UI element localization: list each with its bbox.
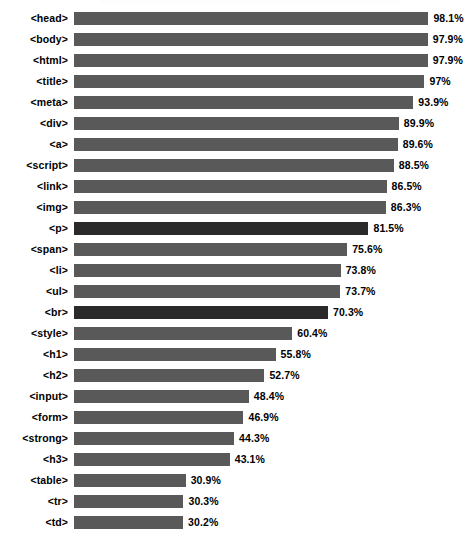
bar-row: <p>81.5% xyxy=(0,218,475,239)
bar-row: <form>46.9% xyxy=(0,407,475,428)
value-label: 43.1% xyxy=(235,449,265,470)
value-label: 30.9% xyxy=(191,470,221,491)
bar xyxy=(74,138,398,151)
bar-row: <li>73.8% xyxy=(0,260,475,281)
value-label: 46.9% xyxy=(248,407,278,428)
category-label: <p> xyxy=(0,218,68,239)
value-label: 86.5% xyxy=(392,176,422,197)
category-label: <script> xyxy=(0,155,68,176)
bar-row: <br>70.3% xyxy=(0,302,475,323)
category-label: <table> xyxy=(0,470,68,491)
category-label: <a> xyxy=(0,134,68,155)
category-label: <div> xyxy=(0,113,68,134)
bar-row: <a>89.6% xyxy=(0,134,475,155)
category-label: <body> xyxy=(0,29,68,50)
bar-row: <title>97% xyxy=(0,71,475,92)
value-label: 52.7% xyxy=(269,365,299,386)
value-label: 44.3% xyxy=(239,428,269,449)
bar xyxy=(74,54,428,67)
value-label: 93.9% xyxy=(418,92,448,113)
bar xyxy=(74,327,292,340)
category-label: <title> xyxy=(0,71,68,92)
bar xyxy=(74,180,387,193)
bar xyxy=(74,264,341,277)
bar xyxy=(74,117,399,130)
bar-row: <div>89.9% xyxy=(0,113,475,134)
category-label: <style> xyxy=(0,323,68,344)
category-label: <link> xyxy=(0,176,68,197)
bar-row: <h2>52.7% xyxy=(0,365,475,386)
bar xyxy=(74,75,424,88)
value-label: 97.9% xyxy=(433,50,463,71)
category-label: <html> xyxy=(0,50,68,71)
value-label: 81.5% xyxy=(373,218,403,239)
value-label: 73.7% xyxy=(345,281,375,302)
bar-chart: <head>98.1%<body>97.9%<html>97.9%<title>… xyxy=(0,0,475,550)
value-label: 88.5% xyxy=(399,155,429,176)
value-label: 70.3% xyxy=(333,302,363,323)
bar xyxy=(74,222,368,235)
bar xyxy=(74,285,340,298)
value-label: 75.6% xyxy=(352,239,382,260)
bar xyxy=(74,348,276,361)
bar xyxy=(74,474,186,487)
category-label: <head> xyxy=(0,8,68,29)
bar xyxy=(74,369,264,382)
category-label: <h3> xyxy=(0,449,68,470)
category-label: <span> xyxy=(0,239,68,260)
value-label: 89.9% xyxy=(404,113,434,134)
category-label: <strong> xyxy=(0,428,68,449)
category-label: <li> xyxy=(0,260,68,281)
bar-row: <style>60.4% xyxy=(0,323,475,344)
bar-row: <script>88.5% xyxy=(0,155,475,176)
bar-row: <strong>44.3% xyxy=(0,428,475,449)
bar xyxy=(74,432,234,445)
value-label: 86.3% xyxy=(391,197,421,218)
bar-row: <meta>93.9% xyxy=(0,92,475,113)
bar xyxy=(74,495,183,508)
value-label: 97.9% xyxy=(433,29,463,50)
bar-row: <html>97.9% xyxy=(0,50,475,71)
category-label: <input> xyxy=(0,386,68,407)
bar xyxy=(74,33,428,46)
bar xyxy=(74,411,243,424)
bar xyxy=(74,201,386,214)
bar xyxy=(74,12,428,25)
bar-row: <h1>55.8% xyxy=(0,344,475,365)
value-label: 30.2% xyxy=(188,512,218,533)
value-label: 73.8% xyxy=(346,260,376,281)
bar-row: <span>75.6% xyxy=(0,239,475,260)
value-label: 55.8% xyxy=(281,344,311,365)
bar xyxy=(74,390,249,403)
bar-row: <img>86.3% xyxy=(0,197,475,218)
plot-area: <head>98.1%<body>97.9%<html>97.9%<title>… xyxy=(0,8,475,542)
bar xyxy=(74,453,230,466)
bar-row: <table>30.9% xyxy=(0,470,475,491)
bar-row: <ul>73.7% xyxy=(0,281,475,302)
bar-row: <h3>43.1% xyxy=(0,449,475,470)
bar xyxy=(74,159,394,172)
category-label: <ul> xyxy=(0,281,68,302)
category-label: <td> xyxy=(0,512,68,533)
bar xyxy=(74,96,413,109)
category-label: <br> xyxy=(0,302,68,323)
bar-row: <link>86.5% xyxy=(0,176,475,197)
category-label: <h2> xyxy=(0,365,68,386)
value-label: 97% xyxy=(429,71,450,92)
bar-row: <td>30.2% xyxy=(0,512,475,533)
bar-row: <input>48.4% xyxy=(0,386,475,407)
bar xyxy=(74,306,328,319)
value-label: 98.1% xyxy=(433,8,463,29)
category-label: <img> xyxy=(0,197,68,218)
category-label: <form> xyxy=(0,407,68,428)
bar-row: <body>97.9% xyxy=(0,29,475,50)
chart-title-cropped xyxy=(100,0,400,3)
value-label: 30.3% xyxy=(188,491,218,512)
category-label: <tr> xyxy=(0,491,68,512)
value-label: 60.4% xyxy=(297,323,327,344)
bar-row: <tr>30.3% xyxy=(0,491,475,512)
value-label: 48.4% xyxy=(254,386,284,407)
bar xyxy=(74,243,347,256)
category-label: <h1> xyxy=(0,344,68,365)
value-label: 89.6% xyxy=(403,134,433,155)
